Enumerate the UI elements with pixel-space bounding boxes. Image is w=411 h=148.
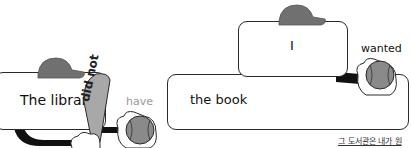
verb-label-wanted: wanted xyxy=(361,42,402,55)
korean-caption: 그 도서관은 내가 원 xyxy=(338,135,402,146)
cap-icon xyxy=(275,3,335,33)
subject-label-i: I xyxy=(290,38,294,53)
ball-icon-right xyxy=(352,55,402,105)
right-arm-shadow xyxy=(0,0,411,148)
